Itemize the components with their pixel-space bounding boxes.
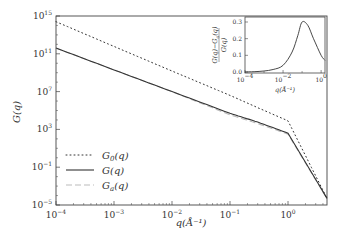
chart: 10−410−310−210−1100 10−510−1103107101110… bbox=[0, 0, 342, 249]
tick-label: 0.2 bbox=[232, 35, 242, 42]
tick-label: 0.0 bbox=[232, 68, 242, 75]
tick-label: 10−1 bbox=[32, 160, 52, 172]
legend-label: Ga(q) bbox=[102, 180, 128, 194]
tick-label: 107 bbox=[37, 85, 52, 97]
tick-label: 0.3 bbox=[232, 18, 242, 25]
tick-label: 103 bbox=[37, 122, 52, 134]
svg-text:G(q): G(q) bbox=[220, 37, 228, 52]
inset-x-axis-label: q(Å⁻¹) bbox=[275, 85, 295, 94]
inset-y-axis-label: G(q)−Ga(q) G(q) bbox=[211, 26, 228, 63]
svg-text:G(q)−Ga(q): G(q)−Ga(q) bbox=[211, 26, 220, 63]
inset-plot: 10−410−21000.00.10.20.3 q(Å⁻¹) G(q)−Ga(q… bbox=[211, 17, 327, 94]
x-axis-label: q(Å⁻¹) bbox=[176, 217, 207, 228]
tick-label: 0.1 bbox=[232, 51, 242, 58]
legend-label: G0(q) bbox=[102, 150, 129, 164]
tick-label: 10−4 bbox=[46, 208, 66, 220]
tick-label: 10−2 bbox=[275, 72, 292, 83]
legend: G0(q)G(q)Ga(q) bbox=[66, 150, 129, 194]
tick-label: 100 bbox=[315, 72, 327, 83]
tick-label: 1015 bbox=[33, 9, 52, 21]
legend-label: G(q) bbox=[102, 165, 124, 176]
tick-label: 10−5 bbox=[32, 198, 52, 210]
inset-frame bbox=[245, 17, 325, 73]
tick-label: 100 bbox=[280, 208, 295, 220]
tick-label: 10−1 bbox=[220, 208, 240, 220]
tick-label: 10−3 bbox=[104, 208, 124, 220]
y-axis-label: G(q) bbox=[11, 101, 22, 123]
tick-label: 1011 bbox=[33, 47, 52, 59]
